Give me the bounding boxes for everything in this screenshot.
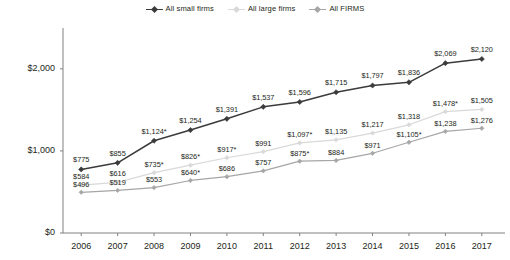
data-point-label: $1,836: [385, 69, 433, 77]
y-axis-tick-label: $0: [0, 228, 55, 237]
y-axis-tick-label: $2,000: [0, 64, 55, 73]
x-axis-tick-label: 2017: [457, 242, 507, 251]
data-point-marker: [298, 141, 302, 145]
data-point-marker: [115, 188, 119, 192]
data-point-label: $1,276: [458, 117, 506, 125]
data-point-marker: [443, 109, 447, 113]
data-point-marker: [188, 178, 192, 182]
data-point-marker: [261, 149, 265, 153]
data-point-label: $971: [349, 142, 397, 150]
data-point-label: $757: [239, 159, 287, 167]
data-point-label: $1,105*: [385, 131, 433, 139]
data-point-marker: [261, 104, 266, 109]
data-point-marker: [407, 140, 411, 144]
data-point-marker: [480, 126, 484, 130]
data-point-marker: [443, 61, 448, 66]
data-point-marker: [370, 151, 374, 155]
data-point-label: $2,120: [458, 46, 506, 54]
data-point-marker: [370, 83, 375, 88]
series-layer: [0, 0, 510, 260]
plot-area: [0, 0, 510, 260]
data-point-marker: [152, 185, 156, 189]
data-point-marker: [225, 156, 229, 160]
data-point-label: $553: [130, 176, 178, 184]
data-point-marker: [480, 107, 484, 111]
data-point-marker: [188, 163, 192, 167]
data-point-marker: [407, 123, 411, 127]
data-point-label: $826*: [166, 153, 214, 161]
data-point-marker: [298, 159, 302, 163]
data-point-marker: [225, 174, 229, 178]
data-point-marker: [479, 56, 484, 61]
data-point-label: $1,217: [349, 121, 397, 129]
data-point-label: $1,254: [166, 117, 214, 125]
data-point-label: $1,391: [203, 106, 251, 114]
data-point-marker: [443, 129, 447, 133]
data-point-label: $991: [239, 140, 287, 148]
data-point-label: $735*: [130, 161, 178, 169]
data-point-label: $884: [312, 149, 360, 157]
data-point-label: $1,505: [458, 97, 506, 105]
data-point-marker: [370, 131, 374, 135]
data-point-marker: [224, 116, 229, 121]
data-point-marker: [261, 169, 265, 173]
data-point-marker: [188, 127, 193, 132]
y-axis-tick-label: $1,000: [0, 146, 55, 155]
data-point-marker: [334, 90, 339, 95]
data-point-marker: [334, 158, 338, 162]
data-point-marker: [406, 80, 411, 85]
chart-container: All small firmsAll large firmsAll FIRMS …: [0, 0, 510, 260]
data-point-label: $1,124*: [130, 128, 178, 136]
data-point-label: $855: [94, 150, 142, 158]
data-point-marker: [297, 99, 302, 104]
data-point-marker: [79, 190, 83, 194]
data-point-label: $1,596: [276, 89, 324, 97]
data-point-marker: [334, 138, 338, 142]
